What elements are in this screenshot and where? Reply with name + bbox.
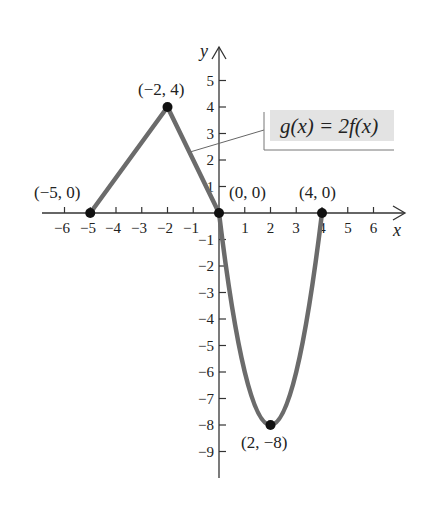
x-tick-label: 5	[344, 220, 352, 236]
curve-parabola-part	[219, 213, 322, 425]
point-0-0	[214, 208, 224, 218]
x-tick-label: 6	[370, 220, 378, 236]
point-label: (−5, 0)	[34, 183, 80, 202]
point-label: (0, 0)	[229, 183, 266, 202]
y-tick-label: 3	[207, 126, 215, 142]
point-2-neg8	[266, 420, 276, 430]
graph-figure: −6 −5 −4 −3 −2 −1 1 2 3 4 5 6 5 4 3 2 1 …	[0, 0, 435, 506]
x-tick-label: 1	[241, 220, 249, 236]
y-tick-label: −8	[198, 417, 214, 433]
point-label: (4, 0)	[299, 183, 336, 202]
x-tick-label: −3	[131, 220, 147, 236]
x-tick-label: −2	[157, 220, 173, 236]
y-tick-label: 2	[207, 152, 215, 168]
x-tick-label: 2	[267, 220, 275, 236]
y-tick-label: −4	[198, 311, 214, 327]
formula-annotation: g(x) = 2f(x)	[190, 110, 394, 152]
x-axis-label: x	[392, 220, 401, 240]
x-tick-label: 3	[292, 220, 300, 236]
y-tick-label: −6	[198, 364, 214, 380]
point-label: (2, −8)	[241, 433, 287, 452]
y-axis-label: y	[198, 41, 208, 61]
x-tick-label: −1	[183, 220, 199, 236]
point-neg5-0	[85, 208, 95, 218]
x-tick-label: −4	[105, 220, 121, 236]
point-4-0	[317, 208, 327, 218]
x-tick-label: −6	[54, 220, 70, 236]
y-tick-label: 5	[207, 73, 215, 89]
y-tick-labels: 5 4 3 2 1 −1 −2 −3 −4 −5 −6 −7 −8 −9	[198, 73, 214, 460]
y-tick-label: −1	[198, 232, 214, 248]
y-tick-label: −3	[198, 285, 214, 301]
y-tick-label: 4	[207, 99, 215, 115]
point-neg2-4	[163, 102, 173, 112]
y-tick-label: −2	[198, 258, 214, 274]
y-tick-label: −9	[198, 444, 214, 460]
curve-linear-part	[90, 107, 219, 213]
point-label: (−2, 4)	[138, 80, 184, 99]
leader-line	[190, 130, 264, 152]
x-tick-labels: −6 −5 −4 −3 −2 −1 1 2 3 4 5 6	[54, 220, 378, 236]
y-tick-label: −7	[198, 391, 214, 407]
x-tick-label: −5	[80, 220, 96, 236]
formula-text: g(x) = 2f(x)	[280, 114, 378, 138]
y-tick-label: −5	[198, 338, 214, 354]
